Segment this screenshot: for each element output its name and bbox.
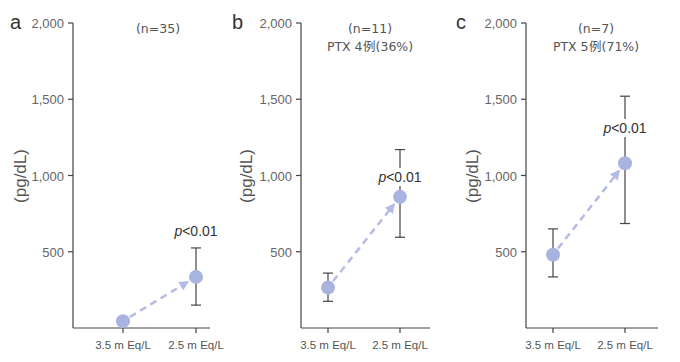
- x-category-label: 3.5 m Eq/L: [300, 339, 356, 351]
- x-category-label: 3.5 m Eq/L: [95, 339, 151, 351]
- panel-ptx-label: PTX 4例(36%): [327, 39, 413, 54]
- x-category-label: 2.5 m Eq/L: [597, 339, 653, 351]
- panel-n-label: (n=11): [348, 21, 392, 36]
- panel-n-label: (n=7): [578, 21, 614, 36]
- chart-panel-a: a(pg/dL)2,0001,5001,0005003.5 m Eq/L2.5 …: [10, 11, 224, 351]
- y-tick-label: 2,000: [484, 16, 517, 31]
- y-tick-label: 1,500: [484, 92, 517, 107]
- p-value-label: p<0.01: [173, 223, 217, 239]
- data-point: [546, 248, 560, 262]
- panel-ptx-label: PTX 5例(71%): [553, 39, 639, 54]
- x-category-label: 2.5 m Eq/L: [372, 339, 428, 351]
- chart-panel-b: b(pg/dL)2,0001,5001,0005003.5 m Eq/L2.5 …: [232, 11, 430, 351]
- p-value-label: p<0.01: [377, 169, 421, 185]
- y-tick-label: 500: [495, 245, 517, 260]
- y-tick-label: 1,500: [259, 92, 292, 107]
- data-point: [321, 281, 335, 295]
- y-tick-label: 1,000: [259, 169, 292, 184]
- y-axis-label: (pg/dL): [463, 149, 482, 203]
- x-category-label: 2.5 m Eq/L: [168, 339, 224, 351]
- panel-letter: b: [232, 11, 243, 33]
- y-tick-label: 1,000: [31, 169, 64, 184]
- y-axis-label: (pg/dL): [11, 149, 30, 203]
- panel-letter: a: [10, 11, 22, 33]
- p-value-label: p<0.01: [602, 120, 646, 136]
- panel-n-label: (n=35): [136, 21, 180, 36]
- y-tick-label: 2,000: [31, 16, 64, 31]
- y-tick-label: 500: [42, 245, 64, 260]
- panel-letter: c: [456, 11, 466, 33]
- data-point: [618, 156, 632, 170]
- trend-arrow: [333, 205, 394, 282]
- y-axis-label: (pg/dL): [237, 149, 256, 203]
- data-point: [189, 270, 203, 284]
- y-tick-label: 2,000: [259, 16, 292, 31]
- y-tick-label: 1,500: [31, 92, 64, 107]
- trend-arrow: [130, 282, 188, 317]
- data-point: [393, 190, 407, 204]
- data-point: [116, 314, 130, 328]
- trend-arrow: [558, 171, 619, 248]
- chart-panel-c: c(pg/dL)2,0001,5001,0005003.5 m Eq/L2.5 …: [456, 11, 658, 351]
- y-tick-label: 500: [270, 245, 292, 260]
- x-category-label: 3.5 m Eq/L: [525, 339, 581, 351]
- y-tick-label: 1,000: [484, 169, 517, 184]
- chart-figure: a(pg/dL)2,0001,5001,0005003.5 m Eq/L2.5 …: [0, 0, 680, 362]
